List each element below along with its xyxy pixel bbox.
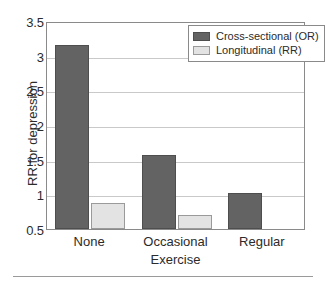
chart-legend: Cross-sectional (OR) Longitudinal (RR) [188, 25, 325, 62]
x-axis-title: Exercise [46, 252, 305, 267]
legend-swatch-longitudinal-icon [193, 46, 210, 55]
bar [91, 203, 125, 229]
bar [55, 45, 89, 229]
x-axis-tick-labels: NoneOccasionalRegular [46, 234, 305, 254]
y-axis-tick-label: 0.5 [2, 224, 44, 237]
bar [228, 193, 262, 229]
y-axis-tick-label: 3.5 [2, 16, 44, 29]
legend-swatch-cross-sectional-icon [193, 32, 210, 41]
legend-item: Longitudinal (RR) [193, 44, 319, 57]
x-axis-tick-label: None [74, 234, 105, 249]
x-axis-tick-label: Regular [239, 234, 285, 249]
bar [142, 155, 176, 229]
bar-chart-figure: 0.511.522.533.5 RR for depression NoneOc… [0, 0, 325, 283]
bar [178, 215, 212, 229]
y-axis-title: RR for depression [25, 54, 40, 214]
legend-label-longitudinal: Longitudinal (RR) [216, 45, 302, 56]
x-axis-tick-label: Occasional [143, 234, 207, 249]
legend-label-cross-sectional: Cross-sectional (OR) [216, 31, 319, 42]
legend-item: Cross-sectional (OR) [193, 30, 319, 43]
footer-divider [13, 276, 313, 277]
